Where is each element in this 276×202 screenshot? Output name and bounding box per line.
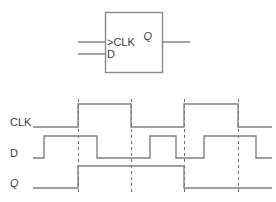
symbol-d-label: D <box>107 48 115 60</box>
clk-waveform-row: CLK <box>10 104 272 128</box>
clk-waveform <box>33 104 272 127</box>
symbol-clk-label: >CLK <box>107 36 135 48</box>
d-flipflop-figure: >CLK D Q CLK D Q <box>0 0 276 202</box>
d-row-label: D <box>10 147 18 159</box>
q-waveform-row: Q <box>10 166 272 189</box>
figure-root: >CLK D Q CLK D Q <box>0 0 276 202</box>
clk-row-label: CLK <box>10 116 32 128</box>
d-waveform <box>33 136 272 158</box>
d-waveform-row: D <box>10 136 272 159</box>
timing-diagram: CLK D Q <box>10 99 272 194</box>
q-waveform <box>33 166 272 188</box>
q-row-label: Q <box>10 177 19 189</box>
flipflop-symbol: >CLK D Q <box>78 13 190 73</box>
symbol-q-label: Q <box>143 30 152 42</box>
dashed-guide-lines <box>79 99 239 194</box>
